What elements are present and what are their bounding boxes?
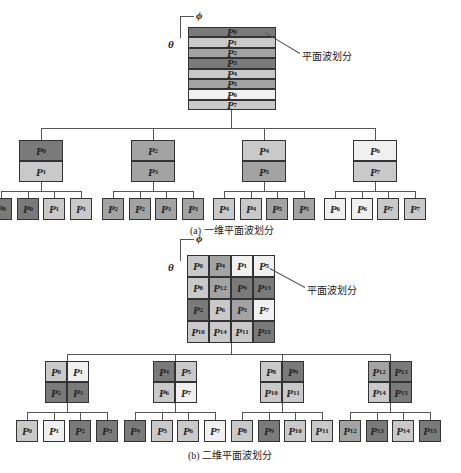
phi-axis-label: ϕ	[196, 9, 202, 21]
connector-line	[153, 128, 154, 140]
connector-line	[81, 191, 82, 198]
connector-line	[322, 412, 323, 420]
group-cell: P6	[353, 140, 397, 161]
connector-line	[295, 412, 296, 420]
connector-line	[166, 191, 167, 198]
connector-line	[224, 191, 225, 198]
connector-line	[251, 191, 252, 198]
connector-line	[390, 354, 391, 361]
leaf-cell: P3	[96, 420, 118, 442]
phi-axis-label: ϕ	[196, 232, 202, 244]
leaf-cell: P0	[0, 198, 12, 220]
group-cell: P8	[260, 361, 282, 382]
group-cell: P4	[242, 140, 286, 161]
group-cell: P2	[131, 140, 175, 161]
leaf-cell: P12	[339, 420, 361, 442]
leaf-cell: P1	[70, 198, 92, 220]
theta-axis-label: θ	[168, 38, 174, 50]
connector-line	[350, 412, 430, 413]
connector-line	[28, 191, 29, 198]
connector-line	[215, 412, 216, 420]
group-cell: P15	[390, 382, 412, 403]
leaf-cell: P10	[284, 420, 306, 442]
connector-line	[403, 412, 404, 420]
connector-line	[264, 128, 265, 140]
leaf-cell: P3	[182, 198, 204, 220]
connector-line	[140, 191, 141, 198]
grid-cell: P5	[253, 255, 275, 277]
caption-b: (b) 二维平面波划分	[188, 447, 272, 462]
connector-line	[350, 412, 351, 420]
leaf-cell: P1	[43, 420, 65, 442]
connector-line	[54, 412, 55, 420]
group-cell: P14	[368, 382, 390, 403]
connector-line	[180, 16, 181, 38]
leaf-cell: P2	[129, 198, 151, 220]
connector-line	[377, 412, 378, 420]
group-cell: P0	[19, 140, 63, 161]
group-cell: P5	[242, 161, 286, 182]
grid-cell: P13	[253, 277, 275, 299]
grid-cell: P2	[187, 299, 209, 321]
connector-line	[362, 191, 363, 198]
connector-line	[67, 354, 390, 355]
connector-line	[135, 412, 215, 413]
group-cell: P1	[67, 361, 89, 382]
connector-line	[375, 128, 376, 140]
grid-cell: P3	[231, 299, 253, 321]
grid-cell: P6	[209, 299, 231, 321]
leaf-cell: P15	[419, 420, 441, 442]
leaf-cell: P2	[102, 198, 124, 220]
leaf-cell: P11	[311, 420, 333, 442]
plane-wave-partition-diagram: ϕθP0P1P2P3P4P5P6P7平面波划分P0P1P0P0P1P1P2P3P…	[0, 0, 461, 473]
group-cell: P2	[45, 382, 67, 403]
leaf-cell: P13	[366, 420, 388, 442]
leaf-cell: P6	[324, 198, 346, 220]
connector-line	[1, 191, 2, 198]
connector-line	[231, 110, 232, 129]
group-cell: P7	[353, 161, 397, 182]
leaf-cell: P7	[377, 198, 399, 220]
connector-line	[430, 412, 431, 420]
callout-label: 平面波划分	[302, 48, 352, 63]
group-cell: P1	[19, 161, 63, 182]
group-cell: P9	[282, 361, 304, 382]
connector-line	[388, 191, 389, 198]
group-cell: P6	[153, 382, 175, 403]
grid-cell: P7	[253, 299, 275, 321]
connector-line	[277, 191, 278, 198]
grid-cell: P11	[231, 321, 253, 343]
leaf-cell: P6	[177, 420, 199, 442]
group-cell: P3	[131, 161, 175, 182]
grid-cell: P4	[209, 255, 231, 277]
group-cell: P12	[368, 361, 390, 382]
connector-line	[282, 354, 283, 361]
theta-axis-label: θ	[168, 261, 174, 273]
connector-line	[113, 191, 114, 198]
group-cell: P0	[45, 361, 67, 382]
connector-line	[180, 16, 194, 17]
grid-cell: P12	[209, 277, 231, 299]
callout-label: 平面波划分	[307, 282, 357, 297]
grid-cell: P14	[209, 321, 231, 343]
leaf-cell: P7	[404, 198, 426, 220]
leaf-cell: P3	[155, 198, 177, 220]
connector-line	[162, 412, 163, 420]
leaf-cell: P4	[240, 198, 262, 220]
group-cell: P5	[175, 361, 197, 382]
connector-line	[175, 354, 176, 361]
connector-line	[27, 412, 28, 420]
group-cell: P10	[260, 382, 282, 403]
connector-line	[113, 191, 193, 192]
connector-line	[335, 191, 415, 192]
connector-line	[415, 191, 416, 198]
leaf-cell: P14	[392, 420, 414, 442]
connector-line	[67, 354, 68, 361]
connector-line	[1, 191, 81, 192]
grid-cell: P9	[231, 277, 253, 299]
grid-cell: P8	[187, 277, 209, 299]
group-cell: P7	[175, 382, 197, 403]
connector-line	[27, 412, 107, 413]
leaf-cell: P0	[17, 198, 39, 220]
leaf-cell: P9	[258, 420, 280, 442]
